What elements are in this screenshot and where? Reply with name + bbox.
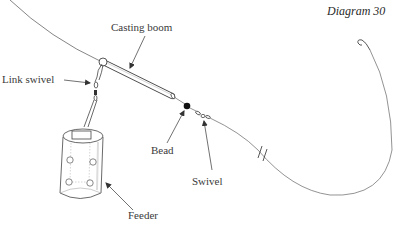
arrow-link-swivel [64, 80, 90, 83]
hook-line [210, 50, 392, 195]
arrow-casting-boom [130, 36, 145, 68]
diagram-title: Diagram 30 [327, 5, 385, 17]
bead [184, 103, 191, 110]
arrow-bead [167, 111, 184, 143]
hook [358, 40, 370, 50]
arrow-swivel [204, 121, 212, 170]
line-to-bead [174, 97, 185, 104]
arrow-feeder [106, 183, 133, 210]
link-swivel [94, 64, 103, 101]
swivel [190, 108, 211, 119]
feeder [60, 129, 103, 199]
label-bead: Bead [151, 145, 174, 156]
label-casting-boom: Casting boom [111, 22, 172, 33]
casting-boom [99, 58, 176, 99]
label-swivel: Swivel [192, 176, 223, 187]
main-line [10, 0, 102, 62]
diagram-canvas: Diagram 30 Casting boom Link swivel Bead… [0, 0, 394, 226]
label-link-swivel: Link swivel [2, 74, 54, 85]
diagram-drawing [0, 0, 394, 226]
label-feeder: Feeder [128, 210, 158, 221]
feeder-tether [84, 100, 97, 127]
